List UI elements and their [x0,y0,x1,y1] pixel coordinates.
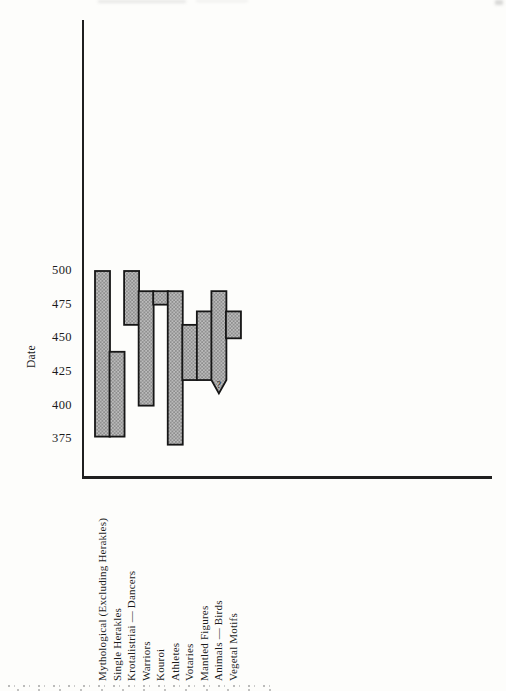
cropped-caption-fragment [8,684,276,691]
x-label-mantled-figures: Mantled Figures [198,606,211,681]
scanned-chart-page: Date 500475450425400375 ? Mythological (… [0,0,506,691]
range-bar-athletes [168,291,183,444]
x-label-animals-birds: Animals — Birds [212,600,225,681]
range-bar-krotalistriai-dancers [124,271,139,325]
x-label-votaries: Votaries [183,644,196,681]
x-label-single-herakles: Single Herakles [111,608,124,681]
x-label-vegetal-motifs: Vegetal Motifs [227,613,240,681]
range-bar-vegetal-motifs [226,311,241,338]
x-label-warriors: Warriors [140,641,153,681]
date-range-bars: ? [0,0,506,691]
range-bar-mythological-excluding-herakles [95,271,110,437]
x-label-athletes: Athletes [169,643,182,681]
range-bar-kouroi [153,291,168,304]
range-bar-mantled-figures [197,311,212,380]
range-bar-single-herakles [110,352,125,437]
uncertainty-question-mark: ? [217,380,221,390]
x-label-krotalistriai-dancers: Krotalistriai — Dancers [125,571,138,681]
range-bar-warriors [139,291,154,405]
range-bar-votaries [182,325,197,380]
x-label-kouroi: Kouroi [154,649,167,681]
x-label-mythological-excluding-herakles: Mythological (Excluding Herakles) [96,518,109,681]
range-bar-animals-birds [211,291,226,393]
